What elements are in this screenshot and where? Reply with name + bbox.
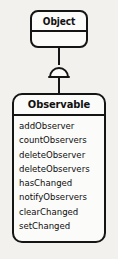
class-member: deleteObserver <box>19 148 104 162</box>
class-title-object: Object <box>32 12 86 32</box>
class-member: addObserver <box>19 119 104 133</box>
class-member: hasChanged <box>19 176 104 190</box>
class-member: clearChanged <box>19 205 104 219</box>
class-operations-observable: addObserver countObservers deleteObserve… <box>14 116 104 241</box>
uml-class-diagram: Object Observable addObserver countObser… <box>0 0 118 259</box>
class-member: notifyObservers <box>19 190 104 204</box>
generalization-arrowhead-icon <box>50 68 68 77</box>
class-member: setChanged <box>19 219 104 233</box>
class-title-observable: Observable <box>14 95 104 116</box>
class-empty-compartment-object <box>32 32 86 46</box>
class-box-observable[interactable]: Observable addObserver countObservers de… <box>12 93 106 243</box>
class-member: countObservers <box>19 133 104 147</box>
class-member: deleteObservers <box>19 162 104 176</box>
class-box-object[interactable]: Object <box>30 10 88 48</box>
